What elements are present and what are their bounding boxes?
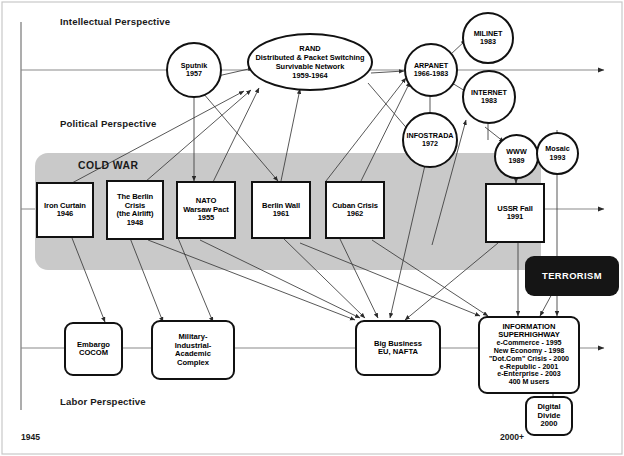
node-embargo-cocom[interactable]: EmbargoCOCOM [64, 322, 123, 376]
node-cuban-crisis[interactable]: Cuban Crisis1962 [325, 181, 385, 239]
node-digital-divide[interactable]: DigitalDivide2000 [525, 396, 573, 436]
text-line: EU, NAFTA [359, 348, 437, 357]
node-information-superhighway-text: INFORMATIONSUPERHIGHWAYe-Commerce - 1995… [480, 323, 578, 388]
text-line: 1993 [540, 154, 575, 162]
node-embargo-cocom-text: EmbargoCOCOM [66, 341, 121, 358]
timeline-start-label: 1945 [21, 432, 40, 442]
text-line: 1961 [255, 210, 307, 219]
node-milinet-text: MILINET1983 [464, 30, 512, 46]
text-line: 1948 [110, 219, 160, 228]
node-big-business-text: Big BusinessEU, NAFTA [357, 340, 439, 357]
node-iron-curtain-text: Iron Curtain1946 [38, 202, 92, 219]
node-rand-text: RANDDistributed & Packet SwitchingSurviv… [249, 44, 371, 81]
text-line: COCOM [68, 349, 119, 358]
text-line: TERRORISM [527, 271, 617, 282]
node-www-text: WWW1989 [496, 148, 537, 164]
node-www[interactable]: WWW1989 [494, 134, 539, 179]
text-line: 1983 [466, 97, 512, 105]
text-line: 1983 [466, 38, 510, 46]
node-ussr-fall[interactable]: USSR Fall1991 [485, 183, 545, 243]
node-iron-curtain[interactable]: Iron Curtain1946 [36, 182, 94, 238]
node-internet-text: INTERNET1983 [464, 89, 514, 105]
node-military-industrial-academic-complex[interactable]: Military-Industrial-AcademicComplex [151, 320, 235, 380]
node-sputnik-text: Sputnik1957 [168, 62, 220, 78]
node-nato[interactable]: NATOWarsaw Pact1955 [176, 181, 236, 239]
node-cuban-crisis-text: Cuban Crisis1962 [327, 202, 383, 219]
cold-war-band-label: COLD WAR [78, 160, 139, 171]
node-sputnik[interactable]: Sputnik1957 [166, 42, 222, 98]
node-terrorism-text: TERRORISM [525, 271, 619, 282]
text-line: Survivable Network [251, 62, 369, 71]
node-berlin-crisis[interactable]: The BerlinCrisis(the Airlift)1948 [106, 180, 164, 240]
text-line: 1957 [170, 70, 218, 78]
text-line: 1966-1983 [408, 70, 454, 78]
perspective-label-political: Political Perspective [60, 118, 156, 129]
text-line: Complex [155, 359, 231, 368]
node-terrorism[interactable]: TERRORISM [525, 256, 619, 296]
text-line: Distributed & Packet Switching [251, 53, 369, 62]
timeline-end-label: 2000+ [500, 432, 524, 442]
text-line: 400 M users [482, 379, 576, 387]
node-information-superhighway[interactable]: INFORMATIONSUPERHIGHWAYe-Commerce - 1995… [478, 316, 580, 394]
text-line: 2000 [529, 420, 569, 429]
text-line: 1955 [180, 214, 232, 223]
node-arpanet[interactable]: ARPANET1966-1983 [404, 43, 458, 97]
node-berlin-wall[interactable]: Berlin Wall1961 [251, 181, 311, 239]
node-internet[interactable]: INTERNET1983 [462, 70, 516, 124]
text-line: 1989 [498, 157, 535, 165]
node-milinet[interactable]: MILINET1983 [462, 12, 514, 64]
text-line: 1972 [406, 140, 454, 148]
node-infostrada-text: INFOSTRADA1972 [404, 132, 456, 148]
node-digital-divide-text: DigitalDivide2000 [527, 403, 571, 429]
node-nato-text: NATOWarsaw Pact1955 [178, 197, 234, 223]
node-berlin-wall-text: Berlin Wall1961 [253, 202, 309, 219]
node-ussr-fall-text: USSR Fall1991 [487, 205, 543, 222]
text-line: 1946 [40, 210, 90, 219]
timeline-diagram: Intellectual Perspective Political Persp… [0, 0, 624, 456]
node-mosaic-text: Mosaic1993 [538, 145, 577, 161]
text-line: 1959-1964 [251, 71, 369, 80]
node-berlin-crisis-text: The BerlinCrisis(the Airlift)1948 [108, 193, 162, 227]
text-line: 1991 [489, 213, 541, 222]
node-rand[interactable]: RANDDistributed & Packet SwitchingSurviv… [247, 33, 373, 91]
perspective-label-labor: Labor Perspective [60, 396, 146, 407]
node-arpanet-text: ARPANET1966-1983 [406, 62, 456, 78]
node-mosaic[interactable]: Mosaic1993 [536, 132, 579, 175]
text-line: RAND [251, 44, 369, 53]
node-infostrada[interactable]: INFOSTRADA1972 [402, 112, 458, 168]
text-line: 1962 [329, 210, 381, 219]
node-big-business[interactable]: Big BusinessEU, NAFTA [355, 320, 441, 376]
perspective-label-intellectual: Intellectual Perspective [60, 16, 170, 27]
node-mic-text: Military-Industrial-AcademicComplex [153, 333, 233, 367]
